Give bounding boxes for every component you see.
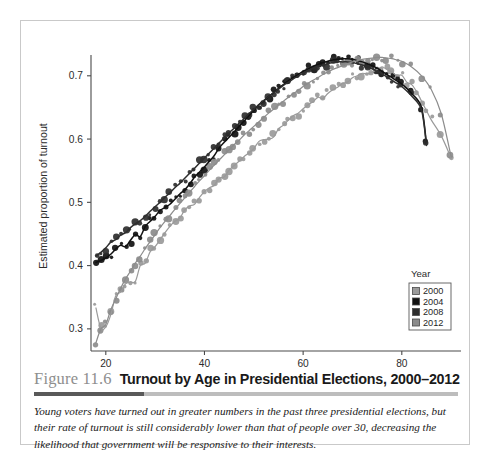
x-tick-label: 20 <box>100 358 112 369</box>
legend-swatch-2000[interactable] <box>413 288 420 295</box>
scatter-point <box>351 72 354 75</box>
fit-curve-2012 <box>96 57 451 342</box>
turnout-by-age-scatter-chart: 0.30.40.50.60.720406080AgeEstimated prop… <box>21 21 469 369</box>
scatter-point <box>93 303 96 306</box>
scatter-point <box>350 63 354 67</box>
legend-label-2004[interactable]: 2004 <box>423 297 443 307</box>
x-tick-label: 80 <box>396 358 408 369</box>
y-tick-label: 0.5 <box>69 197 83 208</box>
y-axis-label: Estimated proportion of turnout <box>37 123 49 269</box>
legend-swatch-2008[interactable] <box>413 309 420 316</box>
legend-swatch-2012[interactable] <box>413 319 420 326</box>
scatter-point <box>258 142 262 146</box>
legend-title: Year <box>411 268 431 279</box>
legend-label-2012[interactable]: 2012 <box>423 318 443 328</box>
figure-number: Figure 11.6 <box>34 369 112 389</box>
figure-title-row: Figure 11.6 Turnout by Age in Presidenti… <box>34 369 458 389</box>
scatter-point <box>401 71 404 74</box>
legend-label-2000[interactable]: 2000 <box>423 286 443 296</box>
axes-layer: 0.30.40.50.60.720406080AgeEstimated prop… <box>37 55 461 369</box>
figure-title: Turnout by Age in Presidential Elections… <box>120 371 460 387</box>
divider-dark-segment <box>34 392 144 396</box>
scatter-point <box>325 88 329 92</box>
scatter-point <box>389 53 394 58</box>
y-tick-label: 0.3 <box>69 323 83 334</box>
chart-legend: Year2000200420082012 <box>409 268 451 330</box>
scatter-point <box>430 115 434 119</box>
y-tick-label: 0.6 <box>69 134 83 145</box>
figure-card: 0.30.40.50.60.720406080AgeEstimated prop… <box>20 20 470 445</box>
fit-curves-layer <box>96 57 451 342</box>
divider-light-segment <box>144 392 458 396</box>
figure-caption-text: Young voters have turned out in greater … <box>34 403 452 452</box>
scatter-point <box>110 256 114 260</box>
y-tick-label: 0.7 <box>69 70 83 81</box>
legend-swatch-2004[interactable] <box>413 298 420 305</box>
title-divider <box>34 392 458 396</box>
chart-plot-area: 0.30.40.50.60.720406080AgeEstimated prop… <box>21 21 469 369</box>
y-tick-label: 0.4 <box>69 260 83 271</box>
caption-block: Figure 11.6 Turnout by Age in Presidenti… <box>34 369 458 452</box>
fit-curve-2004 <box>96 59 427 263</box>
legend-label-2008[interactable]: 2008 <box>423 307 443 317</box>
scatter-point <box>359 65 364 70</box>
x-tick-label: 60 <box>297 358 309 369</box>
scatter-point <box>184 179 188 183</box>
scatter-point <box>120 242 123 245</box>
x-tick-label: 40 <box>199 358 211 369</box>
data-points-layer <box>93 53 454 347</box>
scatter-point <box>282 87 285 90</box>
